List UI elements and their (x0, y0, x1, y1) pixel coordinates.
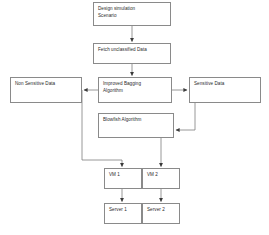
node-vm-2[interactable]: VM 2 (142, 168, 180, 189)
node-vm-1[interactable]: VM 1 (104, 168, 142, 189)
node-server-2[interactable]: Server 2 (142, 203, 180, 224)
node-improved-bagging-algorithm[interactable]: Improved Bagging Algorithm (98, 77, 172, 103)
node-label: Blowfish Algorithm (103, 117, 169, 124)
node-blowfish-algorithm[interactable]: Blowfish Algorithm (98, 113, 174, 138)
edge-sensitive-to-blowfish (176, 103, 195, 130)
node-label: Non Sensitive Data (15, 81, 77, 88)
node-design-simulation-scenario[interactable]: Design simulation Scenario (93, 2, 171, 26)
node-label: Fetch unclassified Data (98, 47, 166, 54)
node-label: Improved Bagging Algorithm (103, 81, 167, 94)
node-label: VM 2 (147, 172, 175, 179)
node-label: Design simulation Scenario (98, 6, 166, 19)
node-label: VM 1 (109, 172, 137, 179)
node-label: Sensitive Data (194, 81, 256, 88)
node-sensitive-data[interactable]: Sensitive Data (189, 77, 261, 103)
node-label: Server 1 (109, 207, 137, 214)
flowchart-diagram: Design simulation Scenario Fetch unclass… (0, 0, 269, 235)
node-server-1[interactable]: Server 1 (104, 203, 142, 224)
node-label: Server 2 (147, 207, 175, 214)
node-non-sensitive-data[interactable]: Non Sensitive Data (10, 77, 82, 103)
node-fetch-unclassified-data[interactable]: Fetch unclassified Data (93, 43, 171, 64)
